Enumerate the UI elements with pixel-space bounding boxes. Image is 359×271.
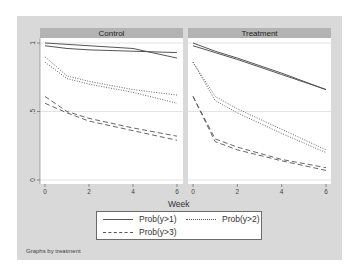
graph-note: Graphs by treatment (26, 248, 81, 254)
legend-label: Prob(y>2) (222, 214, 260, 224)
x-tick-label: 2 (236, 188, 240, 195)
legend: Prob(y>1) Prob(y>2) Prob(y>3) (96, 211, 262, 240)
x-tick-label: 4 (280, 188, 284, 195)
x-tick-label: 6 (324, 188, 328, 195)
panel-title: Control (99, 29, 125, 38)
x-tick-label: 4 (131, 188, 135, 195)
panel-title: Treatment (241, 29, 278, 38)
legend-label: Prob(y>3) (139, 227, 177, 237)
x-tick-label: 0 (191, 188, 195, 195)
dotted-line-swatch-icon (186, 219, 216, 220)
x-axis-label: Week (168, 199, 190, 209)
legend-item-prob-y2: Prob(y>2) (186, 214, 260, 224)
legend-item-prob-y1: Prob(y>1) (103, 214, 177, 224)
y-tick-label: 1 (29, 41, 36, 45)
dashed-line-swatch-icon (103, 232, 133, 233)
x-tick-label: 0 (43, 188, 47, 195)
y-tick-label: .5 (29, 108, 36, 114)
y-tick-label: 0 (29, 178, 36, 182)
x-tick-label: 6 (175, 188, 179, 195)
legend-label: Prob(y>1) (139, 214, 177, 224)
x-tick-label: 2 (87, 188, 91, 195)
solid-line-swatch-icon (103, 219, 133, 220)
legend-item-prob-y3: Prob(y>3) (103, 227, 177, 237)
